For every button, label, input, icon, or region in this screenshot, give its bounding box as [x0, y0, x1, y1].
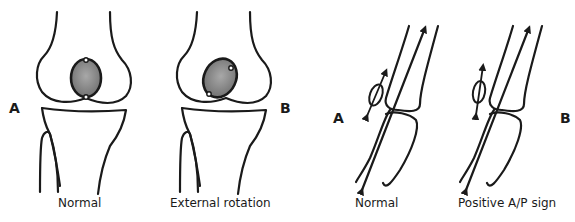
- caption-external-rotation: External rotation: [170, 196, 271, 210]
- panel-letter-a-front: A: [9, 100, 20, 116]
- caption-front-normal: Normal: [58, 196, 101, 210]
- caption-side-normal: Normal: [355, 196, 398, 210]
- front-knee-normal: [37, 12, 131, 194]
- panel-letter-b-side: B: [560, 110, 571, 126]
- patella: [71, 59, 101, 97]
- panel-letter-b-front: B: [280, 100, 291, 116]
- panel-letter-a-side: A: [333, 110, 344, 126]
- front-knee-external-rotation: [177, 12, 271, 194]
- side-knee-positive-ap: [460, 26, 542, 190]
- side-knee-normal: [356, 26, 438, 190]
- caption-positive-ap-sign: Positive A/P sign: [458, 196, 556, 210]
- patella-rotated: [197, 53, 243, 103]
